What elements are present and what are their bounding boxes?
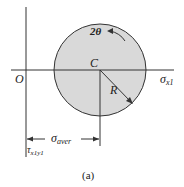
- center-label: C: [90, 57, 98, 69]
- origin-label: O: [15, 73, 24, 85]
- angle-label: 2θ: [90, 26, 101, 37]
- dimension-arrow-left-icon: [27, 137, 33, 142]
- tau-axis-label: τx1y1: [27, 145, 44, 157]
- dimension-arrow-right-icon: [93, 137, 99, 142]
- sigma-aver-label: σaver: [51, 132, 71, 146]
- sigma-axis-label: σx1: [160, 73, 173, 87]
- radius-label: R: [110, 84, 117, 96]
- figure-caption: (a): [82, 170, 94, 181]
